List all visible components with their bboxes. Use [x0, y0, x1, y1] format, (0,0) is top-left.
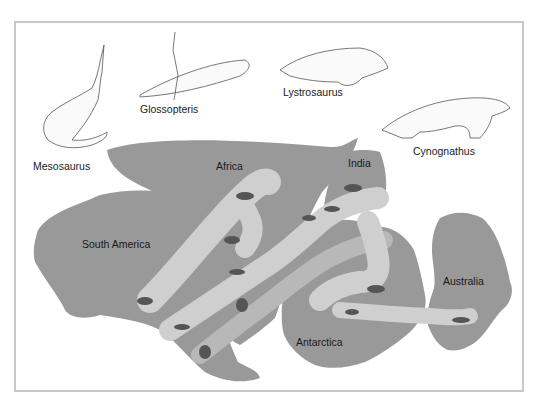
- gondwana-map: [0, 0, 540, 403]
- label-glossopteris: Glossopteris: [140, 103, 198, 115]
- label-india: India: [348, 157, 371, 169]
- cynognathus-sketch: [382, 98, 510, 138]
- fossil-sketches: [44, 32, 510, 148]
- glossopteris-sketch: [140, 60, 249, 97]
- label-cynognathus: Cynognathus: [413, 145, 475, 157]
- label-mesosaurus: Mesosaurus: [33, 160, 90, 172]
- label-australia: Australia: [443, 275, 484, 287]
- mesosaurus-sketch: [44, 45, 107, 148]
- label-africa: Africa: [216, 160, 243, 172]
- label-south-america: South America: [82, 238, 150, 250]
- lystrosaurus-sketch: [280, 48, 388, 85]
- label-antarctica: Antarctica: [296, 336, 343, 348]
- label-lystrosaurus: Lystrosaurus: [283, 86, 343, 98]
